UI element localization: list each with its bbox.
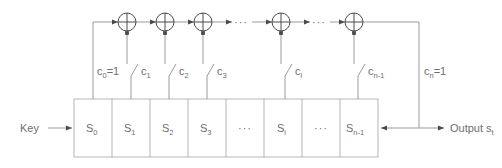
top-ellipsis-1: ··· <box>234 16 248 28</box>
tap-switch-cn1 <box>358 64 365 76</box>
tap-switch-ci <box>285 64 292 76</box>
lfsr-canvas: ··· ··· c0=1 c1 c2 c3 ci cn-1 cn=1 <box>0 0 502 168</box>
key-input-label: Key <box>20 122 39 134</box>
output-label: Output st <box>450 122 495 137</box>
coeff-label-ci: ci <box>295 65 303 80</box>
coeff-label-c2: c2 <box>179 65 189 80</box>
tap-switch-c1 <box>131 64 138 76</box>
feedback-wire-left <box>93 22 118 99</box>
register-cell-ellipsis-2: ··· <box>314 122 328 134</box>
xor-gate-3 <box>194 13 212 31</box>
coeff-label-c3: c3 <box>217 65 227 80</box>
tap-switch-c2 <box>169 64 176 76</box>
coeff-label-cn: cn=1 <box>424 65 446 80</box>
xor-gate-5 <box>345 13 363 31</box>
coefficient-labels: c0=1 c1 c2 c3 ci cn-1 cn=1 <box>97 65 446 80</box>
coeff-label-c0: c0=1 <box>97 65 119 80</box>
xor-gate-2 <box>156 13 174 31</box>
coeff-label-c1: c1 <box>141 65 151 80</box>
lfsr-diagram: ··· ··· c0=1 c1 c2 c3 ci cn-1 cn=1 <box>0 0 502 168</box>
xor-gate-1 <box>118 13 136 31</box>
top-ellipsis-2: ··· <box>312 16 326 28</box>
register-cell-ellipsis-1: ··· <box>238 122 252 134</box>
register-bank-outline <box>74 99 378 157</box>
coeff-label-cn1: cn-1 <box>368 65 384 80</box>
xor-gate-4 <box>272 13 290 31</box>
tap-switch-c3 <box>207 64 214 76</box>
